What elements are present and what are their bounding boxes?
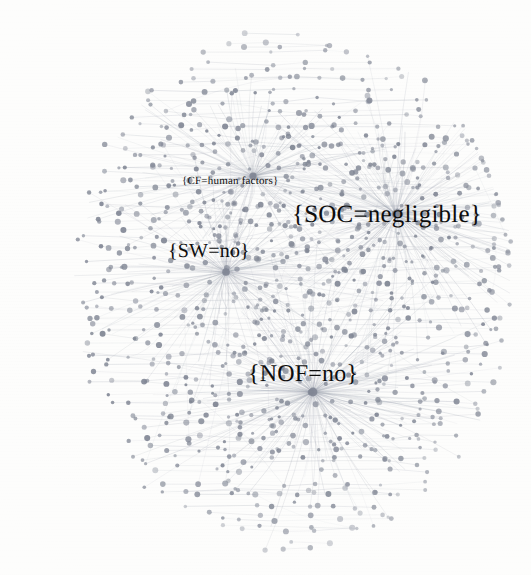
hub-label-soc-negligible: {SOC=negligible} <box>292 202 482 227</box>
hub-node-nof-no <box>309 388 318 397</box>
graph-canvas <box>0 0 531 575</box>
hub-label-cf-human-factors: {CF=human factors} <box>182 176 278 187</box>
network-graph-figure: {CF=human factors} {SOC=negligible} {SW=… <box>0 0 531 575</box>
hub-label-sw-no: {SW=no} <box>168 241 250 261</box>
edge-layer <box>74 33 511 550</box>
hub-node-sw-no <box>222 268 230 276</box>
hub-label-nof-no: {NOF=no} <box>248 362 358 386</box>
